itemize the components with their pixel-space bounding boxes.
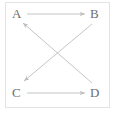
node-label-c: C (12, 86, 21, 99)
diagram-canvas: A B C D (0, 0, 118, 118)
edge-d-to-a (23, 23, 92, 83)
node-label-b: B (90, 7, 99, 20)
node-label-d: D (90, 86, 99, 99)
node-label-a: A (12, 7, 21, 20)
